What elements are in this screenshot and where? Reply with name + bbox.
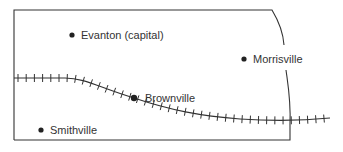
- city-dot-icon: [241, 56, 246, 61]
- city-label-morrisville: Morrisville: [253, 53, 303, 65]
- city-markers: [38, 32, 246, 132]
- city-label-evanton: Evanton (capital): [81, 29, 164, 41]
- city-dot-icon: [38, 127, 43, 132]
- city-label-brownville: Brownville: [145, 92, 195, 104]
- city-dot-icon: [131, 95, 137, 101]
- city-dot-icon: [69, 32, 74, 37]
- city-label-smithville: Smithville: [50, 124, 97, 136]
